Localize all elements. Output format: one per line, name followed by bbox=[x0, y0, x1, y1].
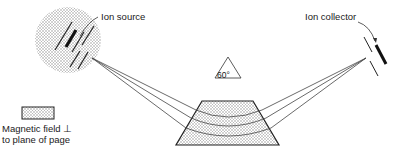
arrowhead-icon bbox=[373, 38, 377, 43]
angle-label: 60° bbox=[217, 70, 230, 80]
ion-collector-leader bbox=[358, 22, 375, 41]
legend-line-2: to plane of page bbox=[2, 135, 70, 145]
ion-collector bbox=[358, 22, 386, 76]
collector-plate bbox=[376, 45, 386, 64]
legend-swatch bbox=[22, 107, 54, 119]
ion-source-chamber bbox=[35, 7, 101, 73]
collector-slit-upper bbox=[364, 37, 372, 52]
ion-source bbox=[35, 7, 101, 73]
collector-slit-lower bbox=[370, 61, 378, 76]
legend-line-1: Magnetic field ⊥ bbox=[2, 124, 72, 134]
ion-collector-label: Ion collector bbox=[305, 12, 356, 22]
ion-source-label: Ion source bbox=[101, 12, 145, 22]
